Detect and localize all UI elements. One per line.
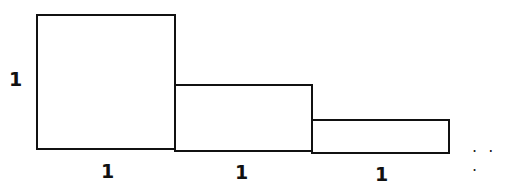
continuation-ellipsis: · · · (472, 142, 507, 180)
rectangle-2 (175, 85, 312, 151)
height-label: 1 (9, 70, 22, 89)
width-label-1: 1 (101, 162, 114, 181)
width-label-2: 1 (235, 163, 248, 182)
rectangle-3 (312, 120, 449, 153)
rectangles-diagram (0, 0, 507, 189)
rectangle-1 (37, 15, 175, 149)
width-label-3: 1 (375, 165, 388, 184)
